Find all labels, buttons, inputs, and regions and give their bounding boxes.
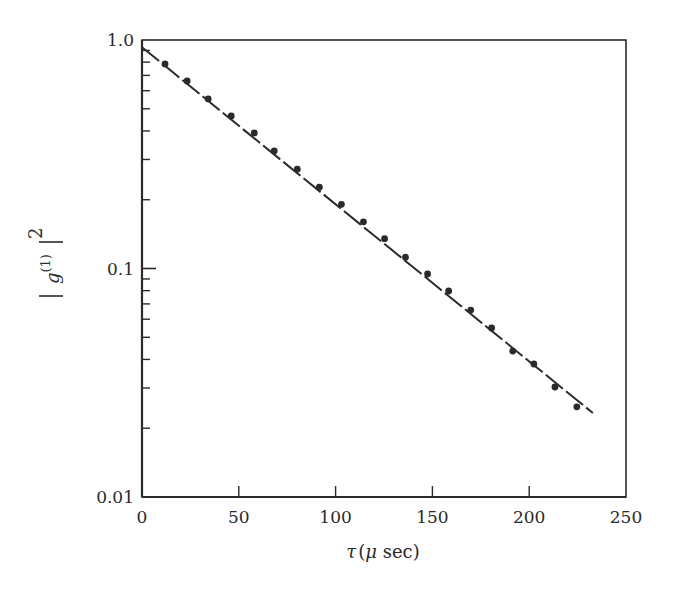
data-point (316, 184, 323, 191)
data-point (488, 325, 495, 332)
y-tick-label: 0.1 (107, 259, 134, 279)
y-axis-ticks: 0.010.11.0 (96, 30, 156, 507)
data-point (381, 235, 388, 242)
data-point (445, 288, 452, 295)
data-point (467, 307, 474, 314)
x-label-unit: sec) (377, 541, 420, 562)
data-point (338, 201, 345, 208)
fit-line-path (142, 47, 593, 413)
y-axis-label: g(1) 2 (25, 228, 63, 296)
data-point (251, 130, 258, 137)
y-tick-label: 1.0 (107, 30, 134, 50)
data-point (294, 166, 301, 173)
x-label-tau: τ (346, 541, 357, 562)
data-point (552, 384, 559, 391)
x-label-mu: μ (365, 541, 377, 562)
data-point (402, 254, 409, 261)
x-axis-label: τ(μ sec) (346, 541, 419, 562)
y-tick-label: 0.01 (96, 487, 134, 507)
y-label-g: g (42, 272, 63, 284)
data-point (162, 61, 169, 68)
plot-border (142, 40, 626, 497)
chart-canvas: 0.010.11.0 050100150200250 τ(μ sec) g(1)… (0, 0, 673, 593)
svg-text:g(1): g(1) (38, 254, 63, 284)
data-point (530, 361, 537, 368)
data-point (205, 96, 212, 103)
x-tick-label: 50 (228, 507, 250, 527)
x-tick-label: 200 (513, 507, 545, 527)
x-tick-label: 0 (137, 507, 148, 527)
x-tick-label: 100 (319, 507, 351, 527)
data-point (228, 113, 235, 120)
svg-text:τ(μ sec): τ(μ sec) (346, 541, 419, 562)
data-point (424, 271, 431, 278)
data-point (184, 78, 191, 85)
plot-frame (142, 40, 626, 497)
x-tick-label: 250 (610, 507, 642, 527)
x-axis-ticks: 050100150200250 (137, 486, 643, 527)
fit-line (142, 47, 593, 413)
data-point (360, 218, 367, 225)
x-tick-label: 150 (416, 507, 448, 527)
data-point (271, 148, 278, 155)
data-point (509, 348, 516, 355)
y-label-power: 2 (25, 228, 46, 239)
x-label-open-paren: ( (358, 541, 365, 562)
y-label-superscript: (1) (38, 254, 53, 272)
data-point (573, 403, 580, 410)
